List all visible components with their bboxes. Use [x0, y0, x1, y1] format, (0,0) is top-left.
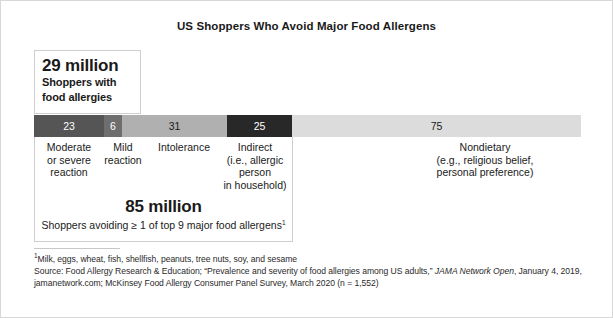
bar-segment-value: 6 — [110, 121, 116, 132]
bar-category-label-line: in household) — [217, 179, 293, 192]
bar-category-label: Indirect(i.e., allergicpersonin househol… — [217, 141, 293, 191]
bar-category-label-line: (e.g., religious belief, — [385, 154, 585, 167]
bar-segment: 25 — [227, 115, 292, 137]
footnote-note1-text: Milk, eggs, wheat, fish, shellfish, pean… — [38, 254, 298, 264]
bar-category-label: Nondietary(e.g., religious belief,person… — [385, 141, 585, 179]
bar-category-label-line: Intolerance — [144, 141, 224, 154]
bar-category-label-line: Indirect — [217, 141, 293, 154]
callout-29-million: 29 million Shoppers with food allergies — [34, 50, 141, 114]
bar-segment: 6 — [104, 115, 122, 137]
bar-category-label-line: Mild — [100, 141, 146, 154]
bar-category-label-line: reaction — [34, 166, 104, 179]
footnote-note1: 1Milk, eggs, wheat, fish, shellfish, pea… — [34, 253, 590, 265]
footnotes: 1Milk, eggs, wheat, fish, shellfish, pea… — [34, 248, 590, 290]
callout-29-line1: Shoppers with — [42, 76, 133, 90]
bar-category-label-line: or severe — [34, 154, 104, 167]
bar-category-label: Intolerance — [144, 141, 224, 154]
callout-85-footnote-marker: 1 — [282, 219, 286, 226]
bar-segment: 23 — [34, 115, 104, 137]
bar-segment: 75 — [292, 115, 581, 137]
bar-category-label-line: Nondietary — [385, 141, 585, 154]
bar-category-label-line: Moderate — [34, 141, 104, 154]
footnote-source-part2: , January 4, 2019, — [514, 266, 582, 276]
footnote-source-part1: Source: Food Allergy Research & Educatio… — [34, 266, 435, 276]
bar-segment-value: 23 — [63, 121, 75, 132]
footnote-source-journal: JAMA Network Open — [435, 266, 514, 276]
bar-segment: 31 — [122, 115, 227, 137]
bar-segment-value: 31 — [169, 121, 181, 132]
bar-category-label-line: reaction — [100, 154, 146, 167]
bar-segment-value: 25 — [254, 121, 266, 132]
bar-segment-value: 75 — [431, 121, 443, 132]
callout-29-headline: 29 million — [42, 56, 133, 75]
bar-category-label-line: person — [217, 166, 293, 179]
infographic-page: US Shoppers Who Avoid Major Food Allerge… — [0, 0, 613, 318]
footnote-source-line1: Source: Food Allergy Research & Educatio… — [34, 265, 590, 277]
page-title: US Shoppers Who Avoid Major Food Allerge… — [0, 20, 613, 32]
callout-29-line2: food allergies — [42, 91, 133, 105]
callout-85-headline: 85 million — [34, 196, 293, 217]
bar-category-label: Mildreaction — [100, 141, 146, 166]
bar-category-label-line: personal preference) — [385, 166, 585, 179]
callout-85-description: Shoppers avoiding ≥ 1 of top 9 major foo… — [34, 218, 293, 232]
callout-85-million: 85 million Shoppers avoiding ≥ 1 of top … — [34, 196, 293, 232]
footnote-divider — [34, 248, 120, 249]
footnote-source-line2: jamanetwork.com; McKinsey Food Allergy C… — [34, 277, 590, 289]
bar-category-label-line: (i.e., allergic — [217, 154, 293, 167]
stacked-bar-chart: 236312575 — [34, 115, 581, 137]
bar-category-label: Moderateor severereaction — [34, 141, 104, 179]
callout-85-description-text: Shoppers avoiding ≥ 1 of top 9 major foo… — [41, 219, 281, 231]
